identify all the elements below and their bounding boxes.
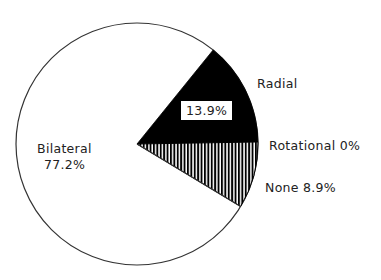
label-bilateral-percent: 77.2% — [44, 158, 85, 172]
label-radial: Radial — [257, 77, 297, 91]
label-radial-percent: 13.9% — [180, 100, 233, 121]
label-rotational: Rotational 0% — [269, 139, 360, 153]
label-none: None 8.9% — [265, 181, 336, 195]
label-bilateral-name: Bilateral — [37, 142, 92, 156]
